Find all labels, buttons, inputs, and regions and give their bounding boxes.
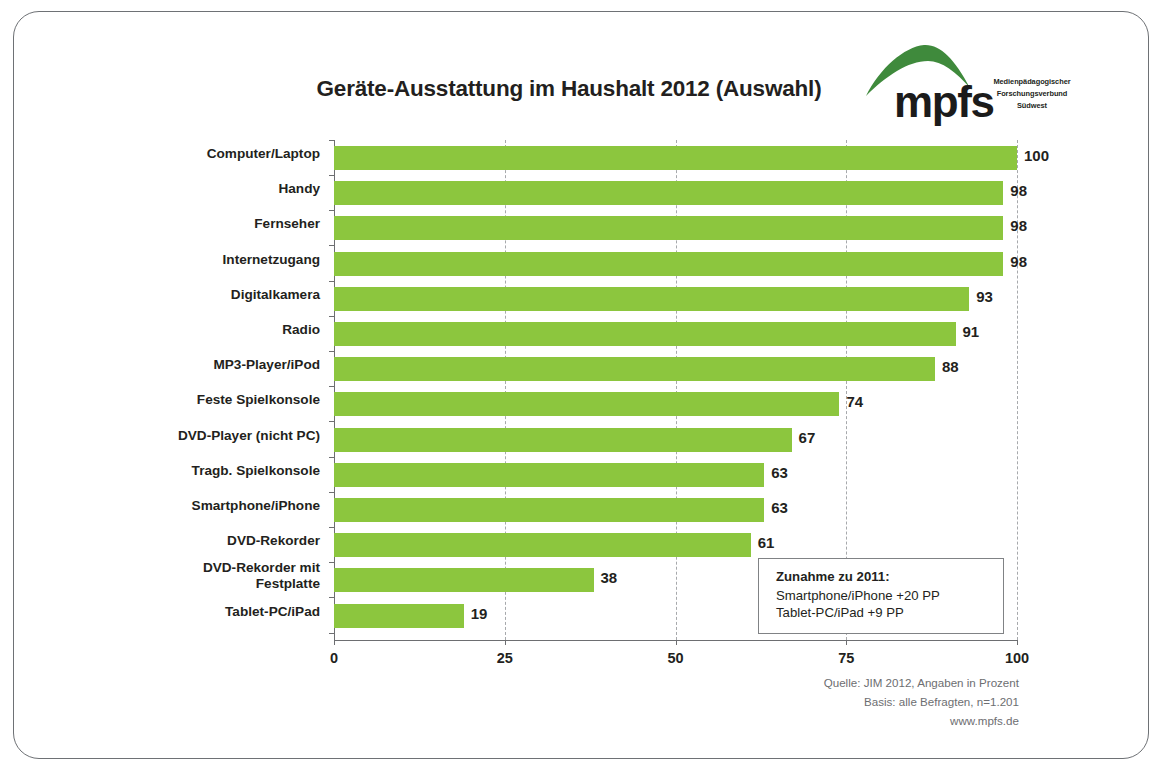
x-axis-tick	[334, 640, 335, 645]
x-axis-tick	[505, 640, 506, 645]
y-axis-tick	[329, 351, 334, 352]
bar-row: MP3-Player/iPod88	[334, 357, 1017, 381]
bar-row: Digitalkamera93	[334, 287, 1017, 311]
category-label: Smartphone/iPhone	[70, 498, 320, 514]
x-axis-tick-label: 0	[330, 650, 338, 666]
annotation-title: Zunahme zu 2011:	[776, 568, 991, 586]
annotation-line-2: Tablet-PC/iPad +9 PP	[776, 604, 991, 622]
y-axis-tick	[329, 316, 334, 317]
y-axis-tick	[329, 140, 334, 141]
bar-value-label: 93	[976, 288, 993, 305]
y-axis-line	[334, 140, 335, 640]
bar-row: Tragb. Spielkonsole63	[334, 463, 1017, 487]
bar-row: Computer/Laptop100	[334, 146, 1017, 170]
y-axis-tick	[329, 457, 334, 458]
y-axis-tick	[329, 245, 334, 246]
slide-frame: Geräte-Ausstattung im Haushalt 2012 (Aus…	[13, 11, 1149, 759]
y-axis-tick	[329, 210, 334, 211]
page-title: Geräte-Ausstattung im Haushalt 2012 (Aus…	[269, 76, 869, 102]
category-label: DVD-Player (nicht PC)	[70, 428, 320, 444]
bar-value-label: 98	[1010, 253, 1027, 270]
category-label: Tablet-PC/iPad	[70, 604, 320, 620]
x-axis-tick-label: 100	[1005, 650, 1029, 666]
bar	[334, 252, 1003, 276]
y-axis-tick	[329, 597, 334, 598]
annotation-line-1: Smartphone/iPhone +20 PP	[776, 587, 991, 605]
chart-header: Geräte-Ausstattung im Haushalt 2012 (Aus…	[14, 12, 1148, 127]
category-label: MP3-Player/iPod	[70, 357, 320, 373]
bar	[334, 216, 1003, 240]
category-label: DVD-Rekorder	[70, 533, 320, 549]
source-line-2: Basis: alle Befragten, n=1.201	[614, 692, 1019, 711]
bar-value-label: 91	[963, 323, 980, 340]
bar	[334, 392, 839, 416]
y-axis-tick	[329, 633, 334, 634]
bar	[334, 357, 935, 381]
bar-row: Internetzugang98	[334, 252, 1017, 276]
bar-value-label: 88	[942, 358, 959, 375]
category-label: Radio	[70, 322, 320, 338]
category-label: DVD-Rekorder mit Festplatte	[70, 560, 320, 592]
bar-value-label: 98	[1010, 182, 1027, 199]
category-label: Computer/Laptop	[70, 146, 320, 162]
bar-value-label: 100	[1024, 147, 1049, 164]
logo-subtitle: Medienpädagogischer Forschungsverbund Sü…	[986, 76, 1078, 112]
bar-value-label: 63	[771, 499, 788, 516]
source-note: Quelle: JIM 2012, Angaben in Prozent Bas…	[614, 673, 1019, 730]
category-label: Handy	[70, 181, 320, 197]
y-axis-tick	[329, 492, 334, 493]
bar-value-label: 63	[771, 464, 788, 481]
y-axis-tick	[329, 562, 334, 563]
bar-value-label: 98	[1010, 217, 1027, 234]
x-axis-tick	[676, 640, 677, 645]
bar	[334, 181, 1003, 205]
category-label: Digitalkamera	[70, 287, 320, 303]
gridline	[505, 140, 506, 640]
gridline	[676, 140, 677, 640]
category-label: Tragb. Spielkonsole	[70, 463, 320, 479]
bar	[334, 463, 764, 487]
x-axis-tick	[1017, 640, 1018, 645]
x-axis-tick-label: 75	[838, 650, 854, 666]
y-axis-tick	[329, 527, 334, 528]
mpfs-logo: mpfs Medienpädagogischer Forschungsverbu…	[864, 42, 1074, 127]
bar-value-label: 74	[846, 393, 863, 410]
source-line-3: www.mpfs.de	[614, 711, 1019, 730]
bar-row: Feste Spielkonsole74	[334, 392, 1017, 416]
bar	[334, 604, 464, 628]
x-axis-tick	[846, 640, 847, 645]
annotation-box: Zunahme zu 2011: Smartphone/iPhone +20 P…	[758, 558, 1004, 634]
x-axis-tick-label: 25	[497, 650, 513, 666]
x-axis-tick-label: 50	[667, 650, 683, 666]
y-axis-tick	[329, 421, 334, 422]
bar	[334, 428, 792, 452]
y-axis-tick	[329, 175, 334, 176]
bar	[334, 146, 1017, 170]
y-axis-tick	[329, 386, 334, 387]
bar	[334, 322, 956, 346]
bar-row: DVD-Player (nicht PC)67	[334, 428, 1017, 452]
bar-value-label: 19	[471, 605, 488, 622]
y-axis-tick	[329, 281, 334, 282]
bar-value-label: 61	[758, 534, 775, 551]
category-label: Internetzugang	[70, 252, 320, 268]
bar-row: Radio91	[334, 322, 1017, 346]
bar	[334, 287, 969, 311]
category-label: Feste Spielkonsole	[70, 392, 320, 408]
bar-row: DVD-Rekorder61	[334, 533, 1017, 557]
bar-value-label: 38	[601, 569, 618, 586]
logo-wordmark: mpfs	[894, 80, 994, 124]
bar	[334, 498, 764, 522]
bar-value-label: 67	[799, 429, 816, 446]
bar-row: Handy98	[334, 181, 1017, 205]
bar-row: Smartphone/iPhone63	[334, 498, 1017, 522]
bar	[334, 568, 594, 592]
category-label: Fernseher	[70, 216, 320, 232]
source-line-1: Quelle: JIM 2012, Angaben in Prozent	[614, 673, 1019, 692]
bar	[334, 533, 751, 557]
bar-row: Fernseher98	[334, 216, 1017, 240]
gridline	[1017, 140, 1018, 640]
